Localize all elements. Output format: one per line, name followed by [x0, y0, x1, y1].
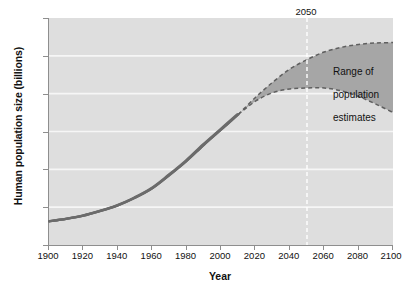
range-note-line-2: population — [333, 89, 379, 101]
range-of-estimates-annotation: Range of population estimates — [333, 54, 379, 135]
historical-population-curve — [49, 114, 238, 221]
range-note-line-3: estimates — [333, 112, 379, 124]
range-note-line-1: Range of — [333, 66, 379, 78]
x-tick-label-2100: 2100 — [371, 250, 411, 261]
historical-population-line — [49, 114, 238, 221]
x-axis-title: Year — [48, 270, 392, 282]
y-axis-title: Human population size (billions) — [12, 14, 24, 238]
population-projection-chart: Human population size (billions) 12 10 8… — [0, 0, 413, 292]
year-2050-label: 2050 — [286, 6, 326, 17]
